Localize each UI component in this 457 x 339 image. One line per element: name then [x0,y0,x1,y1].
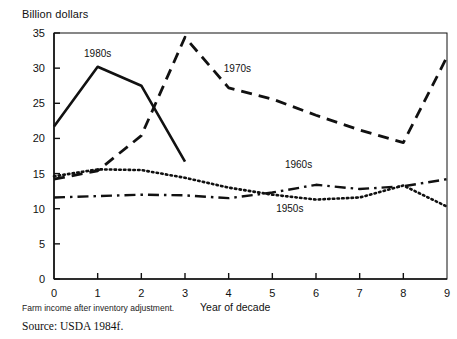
svg-text:10: 10 [33,203,45,215]
svg-text:Year of decade: Year of decade [200,301,270,313]
svg-text:0: 0 [39,273,45,285]
figure-panel: Billion dollars 05101520253035 012345678… [0,0,457,339]
series-label-1950s: 1950s [276,203,303,214]
chart-plot: 05101520253035 0123456789 1980s1970s1960… [0,0,457,339]
svg-text:2: 2 [138,287,144,299]
svg-text:9: 9 [444,287,450,299]
svg-text:1: 1 [95,287,101,299]
svg-text:0: 0 [51,287,57,299]
x-tick-labels: 0123456789 [51,287,450,299]
series-label-1970s: 1970s [224,63,251,74]
series-line-1980s [54,67,185,162]
source-note: Source: USDA 1984f. [22,320,123,332]
x-axis-title: Year of decade [200,301,270,313]
svg-text:4: 4 [226,287,232,299]
svg-text:30: 30 [33,62,45,74]
series-line-1970s [54,37,447,179]
chart-footnote: Farm income after inventory adjustment. [22,303,174,313]
svg-text:6: 6 [313,287,319,299]
series-label-1960s: 1960s [285,159,312,170]
svg-text:35: 35 [33,27,45,39]
svg-text:3: 3 [182,287,188,299]
svg-text:20: 20 [33,132,45,144]
svg-text:15: 15 [33,168,45,180]
svg-text:8: 8 [400,287,406,299]
svg-text:25: 25 [33,97,45,109]
svg-text:5: 5 [39,238,45,250]
y-tick-labels: 05101520253035 [33,27,45,285]
series-label-1980s: 1980s [84,48,111,59]
svg-text:7: 7 [357,287,363,299]
svg-text:5: 5 [269,287,275,299]
series-annotations: 1980s1970s1960s1950s [84,48,312,214]
